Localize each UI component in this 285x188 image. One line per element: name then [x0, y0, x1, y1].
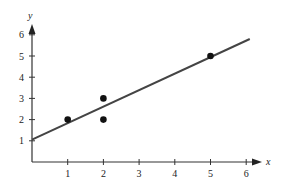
x-tick-label: 3: [137, 168, 142, 179]
x-tick-label: 6: [244, 168, 249, 179]
data-point: [64, 116, 71, 123]
x-tick-label: 4: [172, 168, 177, 179]
y-tick-label: 4: [19, 72, 24, 83]
x-tick-label: 5: [208, 168, 213, 179]
y-tick-label: 5: [19, 51, 24, 62]
axes: x y: [27, 10, 271, 167]
y-tick-label: 2: [19, 114, 24, 125]
y-tick-label: 6: [19, 29, 24, 40]
data-point: [100, 95, 107, 102]
y-axis-arrow-icon: [29, 24, 36, 34]
y-tick-label: 1: [19, 135, 24, 146]
x-axis-label: x: [265, 156, 271, 167]
data-point: [207, 53, 214, 60]
x-axis-arrow-icon: [252, 159, 262, 166]
regression-line: [32, 39, 250, 140]
x-tick-label: 2: [101, 168, 106, 179]
data-point: [100, 116, 107, 123]
y-tick-label: 3: [19, 93, 24, 104]
x-tick-label: 1: [65, 168, 70, 179]
scatter-plot-with-fit-line: x y 123456 123456: [0, 0, 285, 188]
y-axis-label: y: [27, 10, 33, 21]
data-points: [64, 53, 213, 123]
